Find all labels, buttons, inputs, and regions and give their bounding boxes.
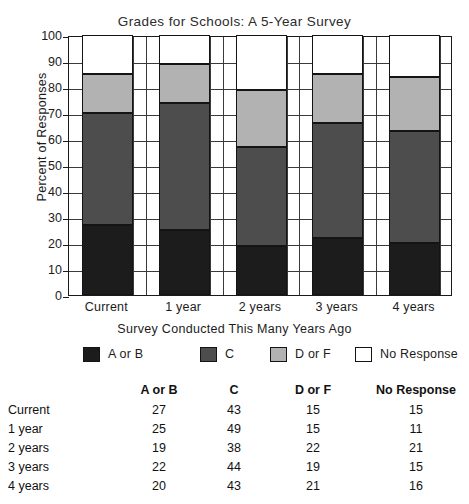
cell-d-or-f: 15 [270, 419, 356, 438]
y-axis-tick-mark [63, 115, 69, 116]
bar-segment-d-or-f [159, 64, 210, 103]
cell-a-or-b: 27 [120, 400, 198, 419]
bar-segment-no-response [82, 35, 133, 74]
column-header-c: C [198, 375, 270, 400]
bar-segment-c [236, 147, 287, 246]
cell-c: 49 [198, 419, 270, 438]
legend-item-c: C [200, 344, 234, 364]
cell-c: 38 [198, 438, 270, 457]
table-row: 4 years20432116 [8, 476, 469, 495]
bar-segment-c [389, 131, 440, 243]
y-tick-label: 30 [22, 212, 62, 224]
y-tick-label: 50 [22, 160, 62, 172]
x-tick-label: 2 years [222, 300, 299, 314]
y-tick-label: 40 [22, 186, 62, 198]
cell-a-or-b: 25 [120, 419, 198, 438]
cell-d-or-f: 21 [270, 476, 356, 495]
legend-swatch-icon [355, 347, 372, 362]
y-axis-tick-mark [63, 89, 69, 90]
table-body: Current274315151 year254915112 years1938… [8, 400, 469, 495]
cell-d-or-f: 22 [270, 438, 356, 457]
y-tick-label: 100 [22, 30, 62, 42]
bar-segment-no-response [159, 35, 210, 64]
y-axis-tick-mark [63, 63, 69, 64]
row-label: 2 years [8, 438, 120, 457]
cell-d-or-f: 19 [270, 457, 356, 476]
gridline-vertical [299, 37, 300, 295]
bar-segment-d-or-f [236, 90, 287, 147]
y-axis-tick-mark [63, 193, 69, 194]
bar-2-years [236, 35, 287, 295]
bar-segment-c [82, 113, 133, 225]
cell-no-response: 15 [356, 457, 469, 476]
bar-segment-a-or-b [312, 238, 363, 295]
row-label: 4 years [8, 476, 120, 495]
bar-segment-d-or-f [389, 77, 440, 132]
row-label: 3 years [8, 457, 120, 476]
column-header-no-response: No Response [356, 375, 469, 400]
bar-segment-a-or-b [159, 230, 210, 295]
y-tick-label: 70 [22, 108, 62, 120]
cell-no-response: 16 [356, 476, 469, 495]
bar-edge-gridline [363, 37, 364, 295]
x-tick-label: 3 years [298, 300, 375, 314]
cell-no-response: 21 [356, 438, 469, 457]
column-header-blank [8, 375, 120, 400]
bar-segment-c [312, 123, 363, 237]
cell-a-or-b: 19 [120, 438, 198, 457]
legend-label: D or F [295, 347, 331, 361]
table-row: 2 years19382221 [8, 438, 469, 457]
y-axis-tick-mark [63, 141, 69, 142]
row-label: 1 year [8, 419, 120, 438]
table-header-row: A or B C D or F No Response [8, 375, 469, 400]
y-axis-tick-mark [63, 37, 69, 38]
y-axis-tick-mark [63, 219, 69, 220]
bar-segment-a-or-b [236, 246, 287, 295]
x-axis-tick-labels: Current1 year2 years3 years4 years [68, 300, 452, 318]
table-row: 1 year25491511 [8, 419, 469, 438]
survey-results-table: A or B C D or F No Response Current27431… [8, 375, 469, 495]
y-tick-label: 80 [22, 82, 62, 94]
gridline-vertical [223, 37, 224, 295]
column-header-a-or-b: A or B [120, 375, 198, 400]
legend-swatch-icon [83, 347, 100, 362]
y-axis-tick-mark [63, 167, 69, 168]
cell-c: 43 [198, 400, 270, 419]
x-tick-label: Current [68, 300, 145, 314]
bar-edge-gridline [440, 37, 441, 295]
table-row: 3 years22441915 [8, 457, 469, 476]
row-label: Current [8, 400, 120, 419]
y-tick-label: 60 [22, 134, 62, 146]
legend-swatch-icon [270, 347, 287, 362]
bar-edge-gridline [133, 37, 134, 295]
cell-c: 44 [198, 457, 270, 476]
bar-3-years [312, 35, 363, 295]
y-tick-label: 0 [22, 290, 62, 302]
bar-segment-c [159, 103, 210, 230]
gridline-vertical [146, 37, 147, 295]
legend-label: No Response [380, 347, 458, 361]
bar-edge-gridline [210, 37, 211, 295]
cell-d-or-f: 15 [270, 400, 356, 419]
cell-no-response: 11 [356, 419, 469, 438]
y-axis-tick-mark [63, 297, 69, 298]
y-axis-tick-labels: 1009080706050403020100 [22, 36, 62, 296]
column-header-d-or-f: D or F [270, 375, 356, 400]
data-table: A or B C D or F No Response Current27431… [0, 375, 469, 504]
cell-no-response: 15 [356, 400, 469, 419]
bar-segment-no-response [236, 35, 287, 90]
cell-a-or-b: 20 [120, 476, 198, 495]
bar-segment-d-or-f [312, 74, 363, 123]
legend-item-no-response: No Response [355, 344, 458, 364]
y-axis-tick-mark [63, 271, 69, 272]
y-tick-label: 90 [22, 56, 62, 68]
chart-title: Grades for Schools: A 5-Year Survey [0, 14, 469, 29]
chart-figure: Grades for Schools: A 5-Year Survey Perc… [0, 0, 469, 340]
bar-edge-gridline [287, 37, 288, 295]
bar-segment-a-or-b [389, 243, 440, 295]
y-axis-tick-mark [63, 245, 69, 246]
bar-segment-no-response [312, 35, 363, 74]
plot-area [68, 36, 452, 296]
y-tick-label: 20 [22, 238, 62, 250]
table-header: A or B C D or F No Response [8, 375, 469, 400]
